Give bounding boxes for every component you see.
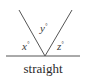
angle-x-label: x° <box>21 40 30 52</box>
diagram-caption: straight <box>0 61 86 77</box>
angle-z-label: z° <box>56 40 64 52</box>
angle-y-label: y° <box>39 22 48 34</box>
